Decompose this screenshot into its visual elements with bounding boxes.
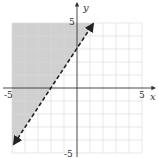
x-max-tick-label: 5 (139, 90, 145, 100)
y-axis-label: y (82, 2, 89, 13)
x-axis-label: x (150, 91, 156, 102)
x-min-tick-label: -5 (4, 90, 13, 100)
y-min-tick-label: -5 (64, 149, 73, 158)
inequality-graph: y x -5 5 5 -5 (0, 0, 158, 158)
y-max-tick-label: 5 (69, 17, 75, 27)
shaded-solution-region (12, 23, 94, 147)
